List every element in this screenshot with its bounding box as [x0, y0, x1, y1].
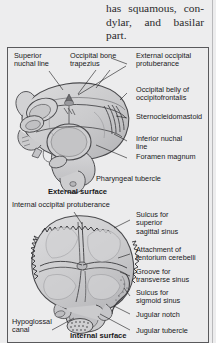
label-pharyngeal-tubercle: Pharyngeal tubercle	[96, 175, 186, 183]
label-attachment-of-tentorium-cerebelli: Attachment of tentorium cerebelli	[136, 246, 209, 263]
label-jugular-notch: Jugular notch	[136, 311, 208, 319]
label-internal-occipital-protuberance: Internal occipital protuberance	[12, 201, 136, 209]
page-canvas: has squamous, con-dylar, and basilar par…	[0, 0, 216, 343]
label-external-occipital-protuberance: External occipital protuberance	[136, 52, 209, 69]
label-occipital-bone-trapezius: Occipital bone trapezius	[70, 52, 126, 69]
label-superior-nuchal-line: Superior nuchal line	[14, 52, 66, 69]
body-paragraph: has squamous, con-dylar, and basilar par…	[106, 2, 204, 43]
label-groove-for-transverse-sinus: Groove for transverse sinus	[136, 268, 208, 285]
figure-occipital-bone: Superior nuchal line Occipital bone trap…	[7, 47, 209, 343]
label-inferior-nuchal-line: Inferior nuchal line	[136, 135, 198, 152]
caption-internal-surface: Internal surface	[70, 332, 150, 340]
label-hypoglossal-canal: Hypoglossal canal	[12, 318, 66, 335]
label-sulcus-for-sigmoid-sinus: Sulcus for sigmoid sinus	[136, 289, 206, 306]
label-occipital-belly-of-occipitofrontalis: Occipital belly of occipitofrontalis	[136, 86, 209, 103]
caption-external-surface: External surface	[48, 188, 128, 196]
column-rule	[212, 0, 213, 343]
label-sternocleidomastoid: Sternocleidomastoid	[136, 113, 209, 121]
label-sulcus-for-superior-sagittal-sinus: Sulcus for superior sagittal sinus	[136, 211, 206, 236]
label-foramen-magnum: Foramen magnum	[136, 153, 208, 161]
